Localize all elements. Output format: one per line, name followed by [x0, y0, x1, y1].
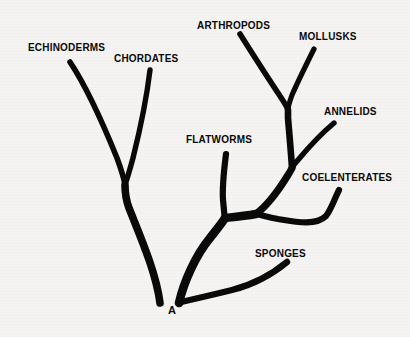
label-echinoderms: ECHINODERMS	[28, 42, 105, 53]
label-mollusks: MOLLUSKS	[299, 31, 357, 42]
label-coelenterates: COELENTERATES	[302, 172, 392, 183]
label-chordates: CHORDATES	[114, 53, 179, 64]
label-annelids: ANNELIDS	[324, 106, 377, 117]
branch-protostome-stem	[225, 214, 256, 218]
label-sponges: SPONGES	[255, 248, 306, 259]
phylogenetic-tree-figure: ECHINODERMS CHORDATES FLATWORMS ARTHROPO…	[0, 0, 410, 337]
branch-flatworms	[223, 154, 226, 218]
label-root-a: A	[168, 304, 176, 316]
label-flatworms: FLATWORMS	[186, 134, 252, 145]
label-arthropods: ARTHROPODS	[197, 20, 270, 31]
tree-canvas: ECHINODERMS CHORDATES FLATWORMS ARTHROPO…	[0, 0, 410, 337]
